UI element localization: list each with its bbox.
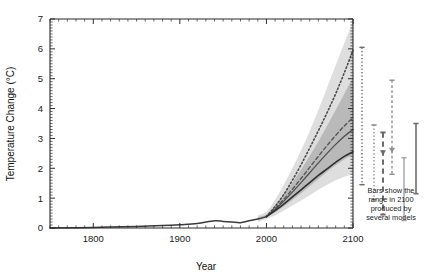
model-range-bar-3-marker [380, 150, 386, 155]
x-tick-label: 2000 [256, 233, 277, 244]
plot-axes [50, 19, 353, 228]
x-axis-ticklabels: 1800190020002100 [83, 233, 364, 244]
y-axis-title: Temperature Change (°C) [5, 67, 16, 182]
y-tick-label: 6 [38, 43, 43, 54]
temperature-change-chart: 1800190020002100 01234567 Year Temperatu… [0, 0, 428, 278]
y-tick-label: 1 [38, 193, 43, 204]
model-range-bar-6 [413, 124, 418, 194]
y-tick-label: 2 [38, 163, 43, 174]
caption-line: produced by [371, 204, 412, 213]
model-range-bar-4-marker [389, 148, 395, 153]
caption-line: Bars show the [368, 186, 415, 195]
y-axis-ticklabels: 01234567 [38, 13, 43, 233]
observed-historical [50, 217, 266, 228]
x-tick-label: 1900 [169, 233, 190, 244]
uncertainty-bands [258, 22, 353, 222]
y-tick-label: 3 [38, 133, 43, 144]
bars-range-caption: Bars show therange in 2100produced bysev… [366, 186, 416, 222]
caption-line: several models [366, 213, 416, 222]
y-tick-label: 5 [38, 73, 43, 84]
x-axis-title: Year [196, 261, 217, 272]
chart-canvas: 1800190020002100 01234567 Year Temperatu… [0, 0, 428, 278]
y-tick-label: 0 [38, 222, 43, 233]
x-tick-label: 1800 [83, 233, 104, 244]
y-tick-label: 4 [38, 103, 43, 114]
model-range-bar-4 [389, 80, 395, 174]
x-tick-label: 2100 [342, 233, 363, 244]
caption-line: range in 2100 [368, 195, 413, 204]
model-range-bar-1 [359, 47, 364, 184]
y-tick-label: 7 [38, 13, 43, 24]
axis-frame [50, 19, 353, 228]
